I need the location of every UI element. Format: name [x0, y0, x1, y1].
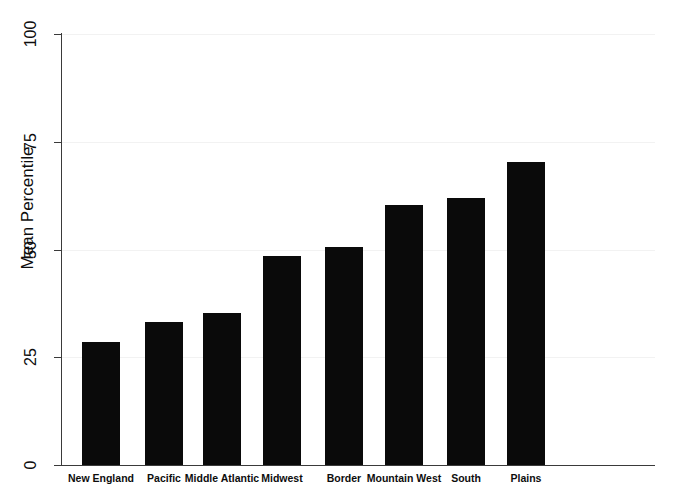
bars-layer [0, 0, 675, 465]
bar-chart-figure: Mean Percentile 0255075100 New EnglandPa… [0, 0, 675, 498]
bar [263, 256, 301, 465]
bar [203, 313, 241, 465]
x-axis-tick-label: Plains [466, 472, 586, 484]
y-axis-tick [54, 465, 62, 466]
bar [145, 322, 183, 465]
bar [385, 205, 423, 465]
bar [325, 247, 363, 465]
bar [507, 162, 545, 465]
x-axis-line [61, 465, 655, 466]
bar [82, 342, 120, 465]
bar [447, 198, 485, 465]
